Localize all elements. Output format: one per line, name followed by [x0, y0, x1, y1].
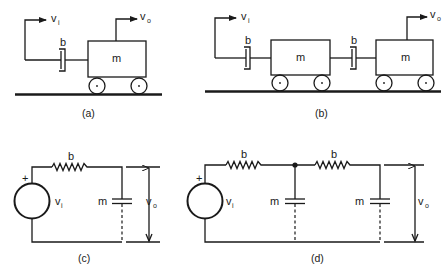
damper: b [59, 36, 66, 71]
panel-d: + v i b b m m [188, 148, 430, 264]
capacitor-1-label: m [270, 195, 279, 207]
wire [205, 165, 226, 184]
capacitor-2: m [355, 195, 390, 207]
panel-c: + v i b m v o (c) [15, 150, 161, 264]
output-velocity-symbol: v [430, 8, 436, 20]
output-voltage-symbol: v [146, 195, 152, 207]
wire [352, 165, 380, 199]
wire [205, 219, 380, 243]
mass-label: m [112, 52, 121, 64]
voltage-source: + v i [15, 172, 64, 219]
damper-label: b [60, 36, 66, 48]
input-velocity-arrow: v i [25, 12, 60, 60]
caption-c: (c) [78, 252, 90, 264]
output-velocity-arrow: v o [407, 8, 441, 40]
mass-1-label: m [296, 51, 305, 63]
damper-2-label: b [351, 34, 357, 46]
input-velocity-symbol: v [51, 12, 57, 24]
output-voltage-dimension: v o [384, 165, 429, 242]
resistor-1-label: b [241, 148, 247, 160]
resistor-1: b [226, 148, 263, 169]
capacitor: m [98, 195, 132, 207]
polarity-plus: + [196, 172, 202, 184]
source-subscript: i [232, 202, 234, 209]
mechanical-electrical-analogy-diagram: v i b m v o (a) [0, 0, 446, 272]
output-velocity-subscript: o [437, 15, 441, 22]
capacitor-2-label: m [355, 195, 364, 207]
damper-1-label: b [245, 34, 251, 46]
damper-2: b [350, 34, 357, 69]
caption-d: (d) [311, 252, 324, 264]
resistor-label: b [68, 150, 74, 162]
capacitor-1: m [270, 195, 305, 207]
mass-2-label: m [401, 51, 410, 63]
wheels [89, 78, 147, 94]
caption-b: (b) [315, 107, 328, 119]
polarity-plus: + [22, 172, 28, 184]
output-velocity-arrow: v o [116, 10, 151, 41]
voltage-source: + v i [188, 172, 235, 219]
input-velocity-symbol: v [241, 10, 247, 22]
resistor-2-label: b [331, 148, 337, 160]
input-velocity-subscript: i [248, 17, 250, 24]
output-velocity-subscript: o [147, 17, 151, 24]
capacitor-label: m [98, 195, 107, 207]
wire [32, 219, 122, 243]
wheels [272, 75, 434, 91]
resistor: b [52, 150, 89, 171]
caption-a: (a) [82, 107, 95, 119]
output-voltage-dimension: v o [126, 167, 160, 242]
resistor-2: b [315, 148, 352, 169]
output-voltage-subscript: o [425, 202, 429, 209]
input-velocity-subscript: i [58, 19, 60, 26]
damper-1: b [244, 34, 251, 69]
wire [32, 167, 52, 184]
panel-a: v i b m v o (a) [15, 10, 162, 119]
panel-b: v i b m b m v o [205, 8, 441, 119]
output-voltage-symbol: v [418, 195, 424, 207]
output-voltage-subscript: o [153, 202, 157, 209]
source-subscript: i [61, 202, 63, 209]
output-velocity-symbol: v [140, 10, 146, 22]
